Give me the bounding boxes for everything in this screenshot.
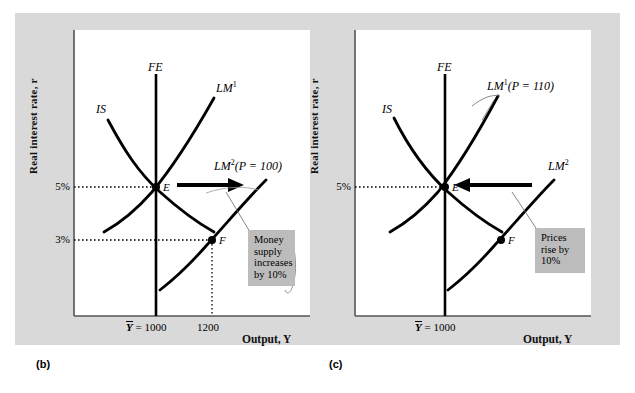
panel-c-point-e	[441, 183, 449, 191]
panel-b-shift-arrow	[177, 178, 244, 192]
panel-c-point-label-e: E	[452, 181, 459, 193]
panel-c: Real interest rate, r	[282, 0, 635, 393]
panel-b: Real interest rate, r	[0, 0, 318, 393]
panel-b-label-is: IS	[96, 102, 106, 117]
panel-c-label-lm1: LM1(P = 110)	[487, 78, 554, 94]
panel-b-curve-is	[108, 120, 214, 232]
panel-b-label-lm1: LM1	[216, 80, 237, 96]
panel-c-label-lm2: LM2	[548, 158, 569, 174]
panel-b-curve-lm1	[104, 98, 214, 232]
panel-c-label-is: IS	[382, 102, 392, 117]
panel-c-x-axis-label: Output, Y	[523, 333, 572, 345]
panel-b-letter: (b)	[36, 358, 50, 370]
panel-c-xtick-ybar: Y = 1000	[415, 321, 455, 334]
figure-root: Real interest rate, r	[0, 0, 635, 393]
panel-b-xtick-1200: 1200	[197, 321, 219, 333]
panel-b-label-fe: FE	[148, 60, 163, 75]
panel-c-letter: (c)	[329, 358, 342, 370]
panel-b-xtick-ybar: Y = 1000	[126, 321, 166, 334]
panel-c-callout: Prices rise by 10%	[535, 228, 585, 273]
panel-b-point-label-f: F	[219, 234, 226, 246]
panel-c-shift-arrow	[454, 178, 532, 192]
panel-b-point-label-e: E	[163, 181, 170, 193]
panel-b-point-e	[152, 183, 160, 191]
panel-c-ytick-5pct: 5%	[325, 180, 351, 192]
panel-c-label-fe: FE	[437, 60, 452, 75]
panel-c-graphics	[282, 0, 635, 393]
panel-c-point-f	[497, 236, 505, 244]
panel-b-ytick-5pct: 5%	[44, 180, 70, 192]
panel-c-curve-is	[394, 118, 502, 232]
panel-c-point-label-f: F	[508, 234, 515, 246]
panel-b-point-f	[208, 236, 216, 244]
panel-b-label-lm2: LM2(P = 100)	[214, 158, 282, 174]
panel-b-ytick-3pct: 3%	[44, 233, 70, 245]
panel-b-callout-leader-1	[226, 192, 250, 232]
